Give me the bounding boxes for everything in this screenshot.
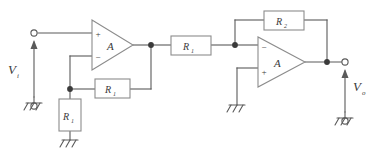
junction-opamp1-output: [148, 42, 154, 48]
resistor-feedback-1-subscript: 1: [113, 91, 116, 97]
junction-stage2-summing-node: [232, 42, 238, 48]
terminal-input-top[interactable]: [31, 30, 37, 36]
junction-inverting-node-1: [67, 86, 73, 92]
circuit-canvas: + − A − + A R 1 R 1 R 1 R 2: [0, 0, 373, 157]
opamp-2-gain-label: A: [273, 57, 281, 69]
resistor-shunt-1-label: R: [62, 111, 69, 122]
resistor-shunt-1-subscript: 1: [71, 118, 74, 124]
diagram-background: [0, 0, 373, 157]
resistor-series-1[interactable]: R 1: [171, 36, 211, 55]
resistor-series-1-subscript: 1: [191, 48, 194, 54]
output-voltage-subscript: o: [362, 89, 366, 97]
junction-opamp2-output: [324, 59, 330, 65]
resistor-feedback-2[interactable]: R 2: [264, 11, 304, 30]
input-voltage-subscript: i: [17, 72, 19, 80]
opamp-1-gain-label: A: [106, 40, 114, 52]
terminal-output-top[interactable]: [342, 59, 348, 65]
resistor-shunt-1[interactable]: R 1: [59, 99, 81, 131]
opamp-2-minus-label: −: [261, 42, 267, 52]
resistor-feedback-1-label: R: [104, 84, 111, 95]
resistor-series-1-label: R: [182, 41, 189, 52]
resistor-feedback-1[interactable]: R 1: [95, 79, 130, 98]
resistor-feedback-2-label: R: [275, 16, 282, 27]
opamp-2-plus-label: +: [261, 67, 267, 77]
resistor-feedback-2-subscript: 2: [284, 23, 287, 29]
opamp-1-plus-label: +: [95, 29, 101, 39]
opamp-1-minus-label: −: [95, 52, 101, 62]
circuit-diagram: + − A − + A R 1 R 1 R 1 R 2: [0, 0, 373, 157]
